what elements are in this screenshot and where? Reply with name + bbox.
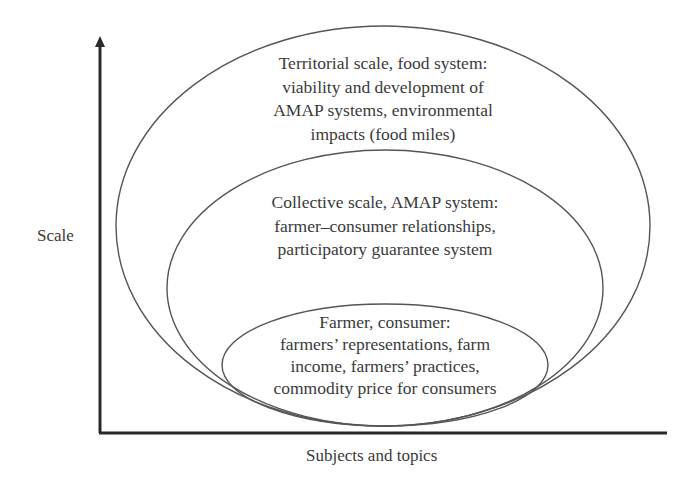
- x-axis-label: Subjects and topics: [306, 446, 437, 466]
- territorial-line-4: impacts (food miles): [233, 123, 533, 147]
- individual-line-1: Farmer, consumer:: [230, 311, 540, 333]
- individual-line-2: farmers’ representations, farm: [230, 333, 540, 355]
- y-axis-arrow-icon: [95, 36, 105, 47]
- territorial-line-3: AMAP systems, environmental: [233, 99, 533, 123]
- territorial-line-1: Territorial scale, food system:: [233, 52, 533, 76]
- collective-line-3: participatory guarantee system: [225, 238, 545, 262]
- collective-line-2: farmer–consumer relationships,: [225, 215, 545, 239]
- territorial-line-2: viability and development of: [233, 76, 533, 100]
- nested-scale-diagram: Scale Subjects and topics Territorial sc…: [0, 0, 692, 485]
- collective-line-1: Collective scale, AMAP system:: [225, 191, 545, 215]
- individual-scale-text: Farmer, consumer: farmers’ representatio…: [230, 311, 540, 399]
- y-axis: [95, 36, 105, 433]
- collective-scale-text: Collective scale, AMAP system: farmer–co…: [225, 191, 545, 262]
- territorial-scale-text: Territorial scale, food system: viabilit…: [233, 52, 533, 146]
- individual-line-4: commodity price for consumers: [230, 377, 540, 399]
- individual-line-3: income, farmers’ practices,: [230, 355, 540, 377]
- y-axis-label: Scale: [37, 226, 74, 246]
